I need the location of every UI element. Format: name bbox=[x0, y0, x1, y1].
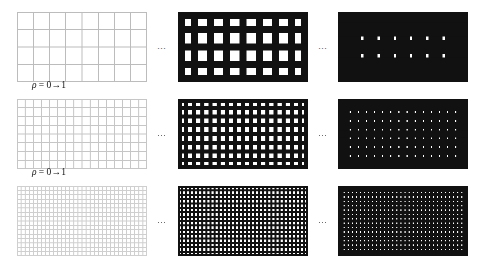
grid-panel-row3-middle bbox=[178, 186, 308, 256]
grid-panel-row2-right bbox=[338, 99, 468, 169]
grid-panel-row1-right bbox=[338, 12, 468, 82]
ellipsis-separator-row2-first: … bbox=[157, 129, 167, 138]
figure-row-coarse: … … ρ = 0→1 bbox=[0, 12, 487, 82]
grid-panel-row2-middle bbox=[178, 99, 308, 169]
ellipsis-separator-row3-second: … bbox=[318, 216, 328, 225]
rho-label-row2: ρ = 0→1 bbox=[32, 167, 66, 177]
figure-row-medium: … … ρ = 0→1 bbox=[0, 99, 487, 169]
ellipsis-separator-row1-first: … bbox=[157, 42, 167, 51]
grid-panel-row1-left bbox=[17, 12, 147, 82]
grid-panel-row3-right bbox=[338, 186, 468, 256]
figure-row-fine: … … bbox=[0, 186, 487, 256]
rho-label-row1: ρ = 0→1 bbox=[32, 80, 66, 90]
grid-refinement-figure: … … ρ = 0→1 … … ρ = 0→1 … … bbox=[0, 0, 487, 275]
grid-panel-row2-left bbox=[17, 99, 147, 169]
grid-panel-row3-left bbox=[17, 186, 147, 256]
grid-panel-row1-middle bbox=[178, 12, 308, 82]
ellipsis-separator-row1-second: … bbox=[318, 42, 328, 51]
ellipsis-separator-row3-first: … bbox=[157, 216, 167, 225]
ellipsis-separator-row2-second: … bbox=[318, 129, 328, 138]
